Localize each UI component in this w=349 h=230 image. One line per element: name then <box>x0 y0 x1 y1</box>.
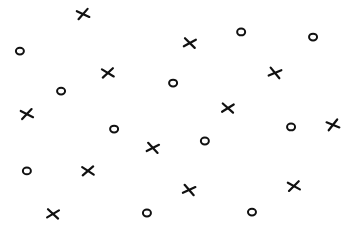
scatter-plot <box>0 0 349 230</box>
plot-background <box>0 0 349 230</box>
